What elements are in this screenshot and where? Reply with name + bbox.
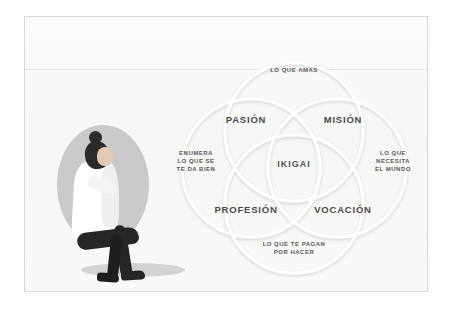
person-shoe-front (97, 272, 119, 282)
venn-circle-right (268, 99, 406, 237)
poster-panel: LO QUE AMAS LO QUE NECESITA EL MUNDO LO … (24, 16, 428, 292)
person-torso-shade (101, 163, 119, 227)
ikigai-venn-diagram: LO QUE AMAS LO QUE NECESITA EL MUNDO LO … (163, 53, 425, 283)
venn-circles (163, 53, 425, 283)
screenshot-root: LO QUE AMAS LO QUE NECESITA EL MUNDO LO … (0, 0, 451, 310)
venn-circle-left (182, 99, 320, 237)
person-shoe-back (121, 270, 146, 281)
venn-circle-top (225, 63, 363, 201)
person-head (97, 147, 113, 166)
person-hair-bun (89, 131, 102, 144)
venn-circle-bottom (225, 135, 363, 273)
